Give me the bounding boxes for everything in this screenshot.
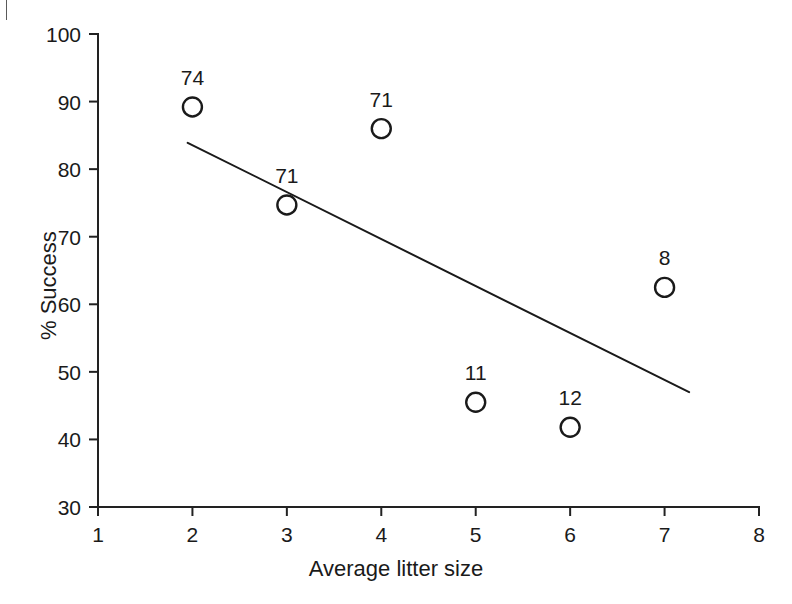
- data-point-marker: [183, 97, 202, 116]
- y-tick-label-90: 90: [0, 91, 81, 112]
- y-tick-label-80: 80: [0, 159, 81, 180]
- regression-line: [188, 143, 689, 392]
- y-axis-title: % Success: [36, 231, 62, 340]
- x-tick-label-4: 4: [375, 524, 387, 545]
- data-point-marker: [561, 418, 580, 437]
- x-axis-title: Average litter size: [0, 556, 792, 582]
- chart-figure: 3040506070809010012345678 74717111128 % …: [0, 0, 792, 604]
- x-tick-label-5: 5: [470, 524, 482, 545]
- y-tick-label-40: 40: [0, 429, 81, 450]
- y-tick-label-50: 50: [0, 361, 81, 382]
- x-tick-label-8: 8: [753, 524, 765, 545]
- data-point-label: 8: [659, 247, 671, 268]
- plot-canvas: [0, 0, 792, 604]
- axis-ticks: [89, 34, 759, 516]
- x-tick-label-2: 2: [187, 524, 199, 545]
- data-point-label: 11: [465, 362, 487, 383]
- data-point-marker: [277, 195, 296, 214]
- y-tick-label-30: 30: [0, 497, 81, 518]
- data-point-label: 12: [558, 387, 581, 408]
- data-point-label: 74: [181, 67, 204, 88]
- x-tick-label-3: 3: [281, 524, 293, 545]
- data-point-marker: [372, 119, 391, 138]
- data-point-label: 71: [275, 165, 298, 186]
- y-tick-label-100: 100: [0, 24, 81, 45]
- x-tick-label-7: 7: [659, 524, 671, 545]
- x-tick-label-1: 1: [92, 524, 104, 545]
- axes: [98, 34, 759, 507]
- data-point-marker: [466, 393, 485, 412]
- x-tick-label-6: 6: [564, 524, 576, 545]
- data-markers: [183, 97, 674, 436]
- data-point-marker: [655, 278, 674, 297]
- trend-line: [188, 143, 689, 392]
- data-point-label: 71: [370, 89, 393, 110]
